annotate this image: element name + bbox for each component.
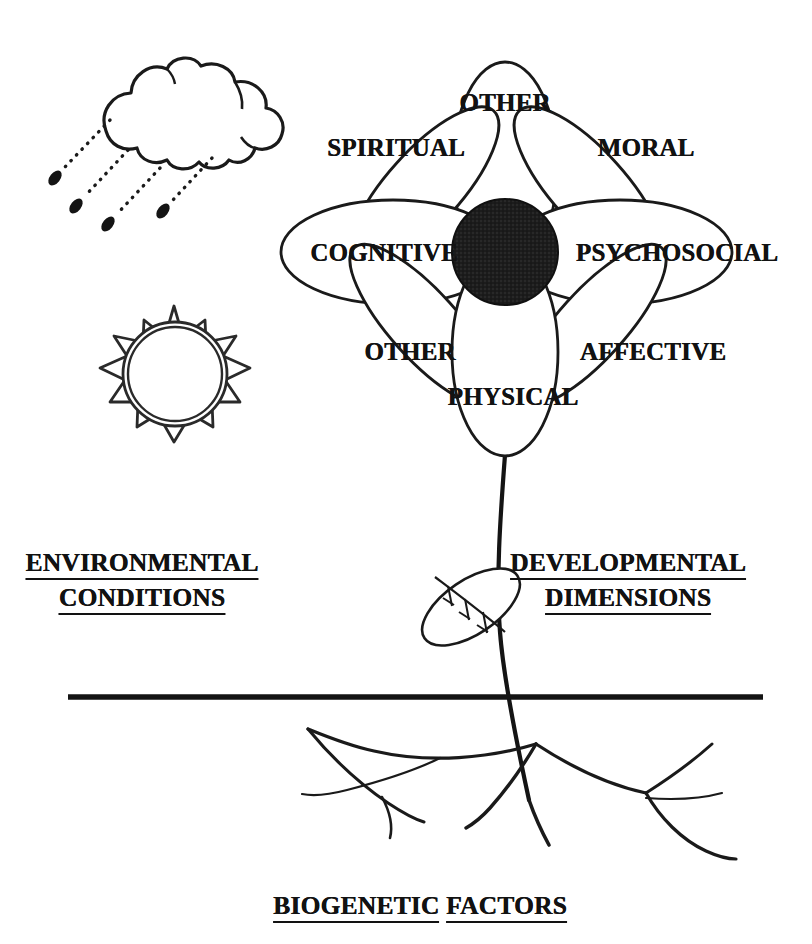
environmental-conditions-line2: CONDITIONS: [59, 583, 225, 615]
petal-label-moral: MORAL: [598, 135, 695, 160]
biogenetic-factors-label: BIOGENETIC FACTORS: [273, 893, 567, 919]
petal-label-affective: AFFECTIVE: [580, 339, 726, 364]
roots-icon: [302, 729, 736, 859]
petal-label-spiritual: SPIRITUAL: [327, 135, 465, 160]
petal-label-cognitive: COGNITIVE: [310, 240, 458, 265]
petal-label-physical: PHYSICAL: [448, 384, 579, 409]
petal-label-other-bottom: OTHER: [364, 339, 455, 364]
environmental-conditions-line1: ENVIRONMENTAL: [25, 548, 258, 580]
developmental-dimensions-line1: DEVELOPMENTAL: [510, 548, 746, 580]
petal-label-psychosocial: PSYCHOSOCIAL: [576, 240, 778, 265]
petal-label-other-top: OTHER: [459, 90, 550, 115]
diagram-page: { "diagram": { "title": "BIOGENETIC FACT…: [0, 0, 812, 944]
sun-icon: [100, 306, 250, 442]
developmental-dimensions-label: DEVELOPMENTAL DIMENSIONS: [510, 545, 746, 615]
environmental-conditions-label: ENVIRONMENTAL CONDITIONS: [25, 545, 258, 615]
developmental-dimensions-line2: DIMENSIONS: [545, 583, 711, 615]
biogenetic-word: BIOGENETIC: [273, 891, 439, 923]
flower-center-disc: [452, 199, 558, 305]
rain-cloud-icon: [46, 58, 283, 234]
factors-word: FACTORS: [446, 891, 567, 923]
